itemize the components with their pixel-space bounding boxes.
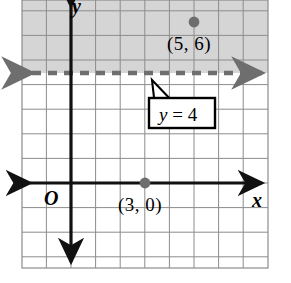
x-axis-label: x [252,190,262,210]
point-marker-5-6 [189,17,200,28]
graph-canvas [0,0,291,283]
point-marker-3-0 [140,178,151,189]
callout-equation-value: = 4 [167,104,197,125]
point-label-5-6: (5, 6) [167,34,211,53]
y-axis-label: y [72,0,81,16]
point-label-3-0: (3, 0) [118,195,162,214]
origin-label: O [44,188,58,208]
coordinate-plane-figure: y = 4 (5, 6) (3, 0) y x O [0,0,291,283]
callout-equation-label: y = 4 [159,104,197,126]
